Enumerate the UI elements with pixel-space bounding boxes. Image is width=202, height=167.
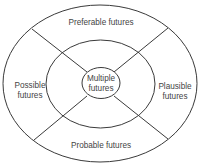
divider-lower-right	[114, 96, 168, 139]
divider-lower-left	[34, 96, 87, 140]
center-label-line2: futures	[88, 84, 113, 93]
divider-upper-right	[114, 28, 168, 72]
divider-upper-left	[32, 29, 87, 72]
probable-futures-label: Probable futures	[71, 141, 131, 150]
preferable-futures-label: Preferable futures	[68, 18, 133, 27]
futures-diagram: Multiple futures Preferable futures Poss…	[0, 0, 202, 167]
possible-futures-label-line1: Possible	[15, 81, 46, 90]
plausible-futures-label-line1: Plausible	[158, 82, 192, 91]
center-label-line1: Multiple	[87, 74, 116, 83]
possible-futures-label-line2: futures	[17, 91, 42, 100]
plausible-futures-label-line2: futures	[162, 92, 187, 101]
center-ellipse	[82, 68, 120, 99]
